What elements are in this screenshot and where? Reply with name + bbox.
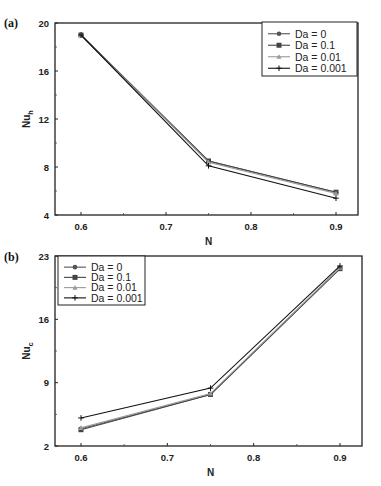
x-tick-label: 0.6 xyxy=(74,452,87,463)
x-tick-label: 0.8 xyxy=(244,221,257,232)
legend-a: Da = 0Da = 0.1Da = 0.01Da = 0.001 xyxy=(262,22,357,76)
legend-b: Da = 0Da = 0.1Da = 0.01Da = 0.001 xyxy=(58,256,145,305)
y-tick-label: 16 xyxy=(38,66,49,77)
svg-text:Da = 0.01: Da = 0.01 xyxy=(295,51,341,63)
y-tick-label: 16 xyxy=(38,314,49,325)
x-axis-title: N xyxy=(205,236,212,247)
y-tick-label: 12 xyxy=(38,114,49,125)
chart-panel-a: (a) 481216200.60.70.80.9NNuh Da = 0Da = … xyxy=(4,16,358,247)
y-tick-label: 8 xyxy=(44,162,49,173)
x-tick-label: 0.7 xyxy=(159,221,172,232)
y-tick-label: 9 xyxy=(44,377,49,388)
svg-text:Da = 0.001: Da = 0.001 xyxy=(91,292,143,304)
panel-b-label: (b) xyxy=(4,250,19,264)
svg-text:Da = 0.1: Da = 0.1 xyxy=(295,39,335,51)
y-tick-label: 23 xyxy=(38,251,49,262)
svg-text:Da = 0: Da = 0 xyxy=(295,28,326,40)
y-tick-label: 2 xyxy=(44,441,49,452)
x-tick-label: 0.8 xyxy=(247,452,260,463)
x-tick-label: 0.6 xyxy=(74,221,87,232)
x-tick-label: 0.9 xyxy=(333,452,346,463)
y-axis-title: Nuh xyxy=(21,110,35,128)
x-tick-label: 0.9 xyxy=(329,221,342,232)
y-axis-title: Nuc xyxy=(21,342,35,360)
panel-a-label: (a) xyxy=(4,16,18,30)
y-tick-label: 4 xyxy=(44,210,50,221)
y-tick-label: 20 xyxy=(38,18,49,29)
figure: (a) 481216200.60.70.80.9NNuh Da = 0Da = … xyxy=(0,0,381,486)
x-tick-label: 0.7 xyxy=(161,452,174,463)
chart-panel-b: (b) 2916230.60.70.80.9NNuc Da = 0Da = 0.… xyxy=(4,250,362,478)
svg-text:Da = 0.001: Da = 0.001 xyxy=(295,62,347,74)
x-axis-title: N xyxy=(207,467,214,478)
